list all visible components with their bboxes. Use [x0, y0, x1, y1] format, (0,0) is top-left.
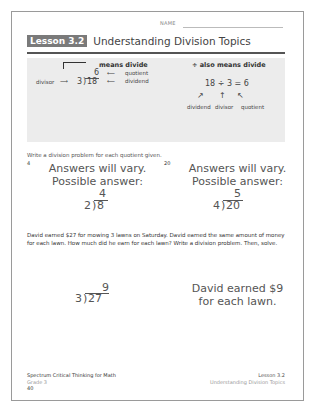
arrow-left-icon: ⟵: [107, 78, 115, 84]
answer-dividend-1: 8: [97, 199, 104, 212]
footer-left: Spectrum Critical Thinking for Math Grad…: [27, 372, 116, 392]
book-title: Spectrum Critical Thinking for Math: [27, 372, 116, 379]
divisor-caption: divisor: [215, 104, 233, 110]
dividend-caption: dividend: [187, 104, 211, 110]
answer-line: David earned $9: [180, 282, 295, 295]
arrow-left-icon: ⟵: [107, 70, 115, 76]
dividend-label: dividend: [125, 78, 149, 84]
arrow-up-icon: ↑: [219, 91, 226, 100]
example-dividend: 18: [87, 77, 97, 86]
answer-divisor-2: 4: [213, 199, 220, 212]
name-label: NAME: [160, 20, 176, 26]
division-bracket-icon: [63, 62, 86, 69]
arrow-right-icon: ⟶: [60, 78, 68, 84]
title-divider: [27, 52, 285, 54]
lesson-badge: Lesson 3.2: [27, 35, 87, 47]
answer-line: Answers will vary.: [40, 162, 155, 175]
answer-text-2: Answers will vary. Possible answer:: [180, 162, 295, 188]
also-means-divide-label: ÷ also means divide: [192, 61, 266, 69]
lesson-title: Understanding Division Topics: [93, 35, 251, 47]
quotient-caption: quotient: [241, 104, 264, 110]
example-quotient: 6: [94, 68, 99, 77]
answer-dividend-2: 20: [226, 199, 240, 212]
example-equation: 18 ÷ 3 = 6: [205, 79, 249, 88]
footer-lesson-title: Understanding Division Topics: [210, 379, 285, 386]
given-quotient-1: 4: [27, 160, 30, 166]
answer-line: Possible answer:: [40, 175, 155, 188]
lesson-header: Lesson 3.2 Understanding Division Topics: [27, 35, 251, 47]
division-info-box: means divide divisor ⟶ 6 3 ) 18 ⟵ ⟵ quot…: [27, 58, 285, 142]
name-field-line[interactable]: [183, 27, 283, 28]
divisor-label: divisor: [36, 79, 54, 85]
instructions: Write a division problem for each quotie…: [27, 152, 162, 158]
word-problem-divisor: 3: [75, 292, 82, 305]
word-problem-text: David earned $27 for mowing 3 lawns on S…: [27, 232, 289, 247]
example-divisor: 3: [77, 77, 82, 86]
answer-divisor-1: 2: [84, 199, 91, 212]
page-number: 40: [27, 385, 116, 392]
quotient-label: quotient: [125, 70, 148, 76]
answer-line: Answers will vary.: [180, 162, 295, 175]
word-problem-answer: David earned $9 for each lawn.: [180, 282, 295, 308]
given-quotient-2: 20: [164, 160, 170, 166]
means-divide-label: means divide: [99, 61, 148, 69]
arrow-up-left-icon: ↖: [237, 91, 244, 100]
answer-line: for each lawn.: [180, 295, 295, 308]
footer-right: Lesson 3.2 Understanding Division Topics: [210, 372, 285, 385]
answer-text-1: Answers will vary. Possible answer:: [40, 162, 155, 188]
arrow-up-right-icon: ↗: [197, 91, 204, 100]
word-problem-dividend: 27: [88, 292, 102, 305]
